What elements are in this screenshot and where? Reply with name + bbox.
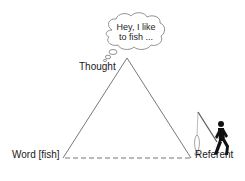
thought-bubble-line-2: to fish ... <box>113 32 159 42</box>
node-label-word: Word [fish] <box>12 150 60 160</box>
edge-word-thought <box>63 58 127 158</box>
thought-bubble-line-1: Hey, I like <box>113 22 159 32</box>
node-label-thought: Thought <box>79 62 116 72</box>
thought-bubble-text: Hey, I like to fish ... <box>113 22 159 43</box>
node-label-referent: Referent <box>195 150 233 160</box>
edge-thought-referent <box>127 58 191 158</box>
